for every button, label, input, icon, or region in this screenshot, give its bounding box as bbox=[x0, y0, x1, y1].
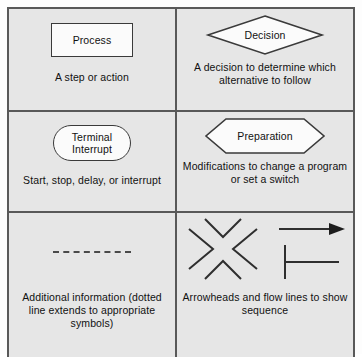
decision-symbol: Decision bbox=[206, 14, 324, 56]
terminal-interrupt-caption: Start, stop, delay, or interrupt bbox=[19, 174, 165, 187]
process-symbol-label: Process bbox=[73, 34, 112, 47]
four-arrowheads-icon bbox=[189, 219, 257, 279]
terminal-symbol-area: Terminal Interrupt bbox=[9, 112, 175, 174]
terminal-interrupt-symbol-label: Terminal Interrupt bbox=[72, 131, 112, 156]
symbol-cell-terminal-interrupt: Terminal Interrupt Start, stop, delay, o… bbox=[9, 112, 177, 213]
symbol-cell-decision: Decision A decision to determine which a… bbox=[177, 9, 353, 112]
arrowheads-caption: Arrowheads and flow lines to show sequen… bbox=[177, 291, 353, 317]
preparation-symbol-area: Preparation bbox=[177, 112, 353, 160]
symbol-cell-dotted-line: Additional information (dotted line exte… bbox=[9, 213, 177, 357]
flowchart-symbol-table: Process A step or action Decision A deci… bbox=[7, 7, 355, 357]
decision-symbol-area: Decision bbox=[177, 9, 353, 61]
preparation-symbol: Preparation bbox=[204, 117, 326, 155]
dotted-line-symbol-area bbox=[9, 213, 175, 291]
terminal-interrupt-symbol: Terminal Interrupt bbox=[53, 125, 131, 161]
dotted-line-symbol bbox=[53, 251, 131, 253]
preparation-caption: Modifications to change a program or set… bbox=[177, 160, 353, 186]
symbol-cell-process: Process A step or action bbox=[9, 9, 177, 112]
process-caption: A step or action bbox=[51, 71, 133, 84]
preparation-hexagon-icon bbox=[204, 117, 326, 155]
arrowheads-flowlines-symbol bbox=[181, 215, 349, 289]
decision-caption: A decision to determine which alternativ… bbox=[177, 61, 353, 87]
symbol-cell-preparation: Preparation Modifications to change a pr… bbox=[177, 112, 353, 213]
flow-line-arrow-icon bbox=[279, 223, 345, 235]
arrowheads-symbol-area bbox=[177, 213, 353, 291]
decision-diamond-icon bbox=[206, 14, 324, 56]
process-symbol: Process bbox=[51, 23, 133, 57]
dotted-line-caption: Additional information (dotted line exte… bbox=[9, 291, 175, 330]
symbol-cell-arrowheads: Arrowheads and flow lines to show sequen… bbox=[177, 213, 353, 357]
flow-line-junction-icon bbox=[285, 245, 339, 279]
process-symbol-area: Process bbox=[9, 9, 175, 71]
